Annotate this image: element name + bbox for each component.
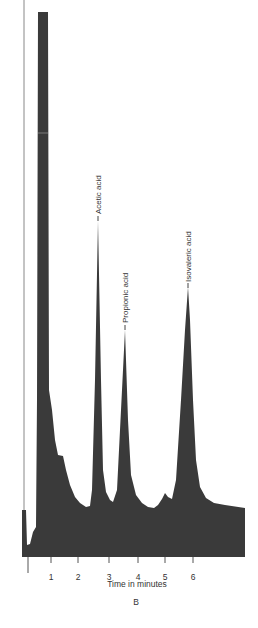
peak-label: Isovaleric acid	[184, 231, 193, 282]
chromatogram-svg: 123456 Acetic acidPropionic acidIsovaler…	[0, 0, 258, 628]
peak-labels: Acetic acidPropionic acidIsovaleric acid	[94, 175, 193, 330]
x-axis-label: Time in minutes	[107, 579, 167, 589]
peak-label: Acetic acid	[94, 175, 103, 214]
chromatogram-trace	[22, 12, 245, 557]
chromatogram-chart: 123456 Acetic acidPropionic acidIsovaler…	[0, 0, 258, 628]
peak-label: Propionic acid	[121, 273, 130, 323]
panel-label: B	[133, 597, 139, 607]
x-tick-label: 6	[191, 572, 196, 582]
x-tick-label: 1	[49, 572, 54, 582]
x-tick-label: 2	[76, 572, 81, 582]
